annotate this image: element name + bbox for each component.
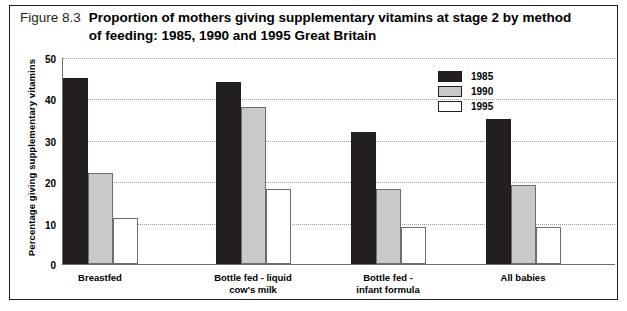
bar-groups: BreastfedBottle fed - liquidcow's milkBo… — [63, 58, 615, 264]
legend-item: 1985 — [438, 69, 493, 84]
bar-set — [486, 58, 561, 264]
y-axis-tick-label: 40 — [45, 95, 56, 106]
bar-1995 — [401, 227, 426, 264]
figure-title-block: Figure 8.3 Proportion of mothers giving … — [20, 9, 600, 45]
bar-1990 — [241, 107, 266, 264]
bar-1985 — [216, 82, 241, 264]
y-axis-tick-label: 0 — [50, 260, 56, 271]
legend-label-1985: 1985 — [471, 71, 493, 82]
legend-swatch-1990 — [438, 86, 462, 97]
bar-1990 — [511, 185, 536, 264]
legend-label-1995: 1995 — [471, 101, 493, 112]
legend-swatch-1985 — [438, 71, 462, 82]
figure-container: Figure 8.3 Proportion of mothers giving … — [0, 0, 627, 311]
legend-label-1990: 1990 — [471, 86, 493, 97]
x-axis-category-label: Breastfed — [15, 272, 185, 284]
bar-1985 — [63, 78, 88, 264]
plot-area: 01020304050 BreastfedBottle fed - liquid… — [62, 58, 615, 265]
chart-legend: 198519901995 — [438, 69, 493, 114]
y-axis-tick-label: 30 — [45, 136, 56, 147]
bar-set — [351, 58, 426, 264]
bar-1985 — [351, 132, 376, 264]
bar-1995 — [536, 227, 561, 264]
bar-1995 — [266, 189, 291, 264]
y-axis-tick-label: 10 — [45, 219, 56, 230]
legend-item: 1990 — [438, 84, 493, 99]
bar-1985 — [486, 119, 511, 264]
legend-swatch-1995 — [438, 101, 462, 112]
page-title: Proportion of mothers giving supplementa… — [89, 9, 581, 45]
bar-set — [63, 58, 138, 264]
y-axis-tick-label: 50 — [45, 54, 56, 65]
y-axis-tick-label: 20 — [45, 178, 56, 189]
bar-1990 — [88, 173, 113, 264]
bar-1990 — [376, 189, 401, 264]
bar-set — [216, 58, 291, 264]
y-axis-title: Percentage giving supplementary vitamins — [26, 53, 37, 263]
legend-item: 1995 — [438, 99, 493, 114]
x-axis-category-label: All babies — [438, 272, 608, 284]
figure-number: Figure 8.3 — [20, 9, 81, 27]
bar-1995 — [113, 218, 138, 264]
